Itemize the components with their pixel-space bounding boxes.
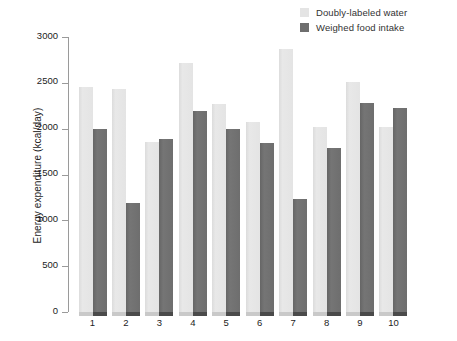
y-tick-label: 0 (53, 306, 58, 316)
bar-weighed-food-intake (360, 103, 374, 312)
y-tick-label: 1000 (37, 214, 58, 224)
bar-group (111, 37, 140, 312)
chart-legend: Doubly-labeled water Weighed food intake (300, 8, 407, 32)
bar-doubly-labeled-water (112, 89, 126, 312)
plot-area: 300025002000150010005000 (78, 37, 408, 312)
y-tick-label: 500 (42, 260, 58, 270)
x-axis-label: 4 (178, 318, 207, 328)
x-axis-label: 9 (346, 318, 375, 328)
bar-group (312, 37, 341, 312)
bar-group (178, 37, 207, 312)
bar-weighed-food-intake (159, 139, 173, 312)
x-axis-label: 3 (145, 318, 174, 328)
x-axis-label: 6 (245, 318, 274, 328)
bar-weighed-food-intake (126, 203, 140, 312)
y-tick-label: 1500 (37, 168, 58, 178)
bar-weighed-food-intake (93, 129, 107, 312)
bar-group (279, 37, 308, 312)
y-tick-label: 3000 (37, 31, 58, 41)
y-tick-mark (62, 175, 68, 176)
x-axis-label: 7 (279, 318, 308, 328)
legend-label-weighed-food-intake: Weighed food intake (316, 23, 404, 33)
y-axis-line (68, 37, 69, 312)
bar-doubly-labeled-water (212, 104, 226, 312)
bar-weighed-food-intake (327, 148, 341, 312)
bar-doubly-labeled-water (246, 122, 260, 312)
x-axis-label: 1 (78, 318, 107, 328)
legend-item-weighed-food-intake: Weighed food intake (300, 23, 407, 33)
bar-group (245, 37, 274, 312)
y-tick-label: 2000 (37, 122, 58, 132)
x-axis-label: 8 (312, 318, 341, 328)
y-tick: 2000 (62, 129, 68, 130)
legend-label-doubly-labeled-water: Doubly-labeled water (316, 8, 407, 18)
bar-doubly-labeled-water (379, 127, 393, 312)
bar-doubly-labeled-water (346, 82, 360, 312)
y-tick: 3000 (62, 37, 68, 38)
bar-weighed-food-intake (193, 111, 207, 312)
bar-weighed-food-intake (393, 108, 407, 312)
bar-weighed-food-intake (226, 129, 240, 312)
y-tick: 1000 (62, 220, 68, 221)
y-tick-mark (62, 37, 68, 38)
legend-swatch-icon-weighed-food-intake (300, 23, 309, 32)
y-tick: 500 (62, 266, 68, 267)
bar-group (379, 37, 408, 312)
y-tick-mark (62, 220, 68, 221)
energy-expenditure-bar-chart: Doubly-labeled water Weighed food intake… (0, 0, 457, 341)
x-axis-label: 2 (111, 318, 140, 328)
bar-weighed-food-intake (293, 199, 307, 312)
y-tick: 0 (62, 312, 68, 313)
legend-item-doubly-labeled-water: Doubly-labeled water (300, 8, 407, 18)
bar-weighed-food-intake (260, 143, 274, 312)
bar-doubly-labeled-water (179, 63, 193, 312)
y-tick-mark (62, 312, 68, 313)
x-axis-label: 10 (379, 318, 408, 328)
y-tick: 1500 (62, 175, 68, 176)
bar-doubly-labeled-water (313, 127, 327, 312)
bar-doubly-labeled-water (79, 87, 93, 313)
bar-group (346, 37, 375, 312)
y-tick: 2500 (62, 83, 68, 84)
y-tick-mark (62, 266, 68, 267)
legend-swatch-icon-doubly-labeled-water (300, 8, 309, 17)
bar-groups (78, 37, 408, 312)
bar-doubly-labeled-water (279, 49, 293, 312)
x-axis-labels: 12345678910 (78, 318, 408, 328)
bar-group (145, 37, 174, 312)
bar-group (212, 37, 241, 312)
bar-group (78, 37, 107, 312)
x-axis-label: 5 (212, 318, 241, 328)
y-tick-mark (62, 83, 68, 84)
y-tick-label: 2500 (37, 76, 58, 86)
y-tick-mark (62, 129, 68, 130)
bar-doubly-labeled-water (145, 142, 159, 312)
